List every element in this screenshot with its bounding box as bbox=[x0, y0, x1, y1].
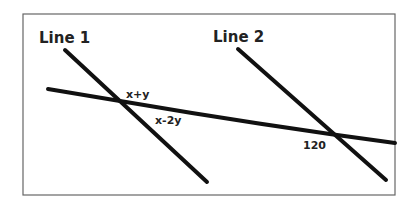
line-1-label: Line 1 bbox=[39, 29, 90, 47]
line-2-label: Line 2 bbox=[213, 28, 264, 46]
parallel-lines-diagram: Line 1 Line 2 x+y x-2y 120 bbox=[0, 0, 417, 205]
angle-label-120: 120 bbox=[303, 139, 326, 152]
angle-label-x-minus-2y: x-2y bbox=[155, 114, 182, 127]
angle-label-x-plus-y: x+y bbox=[126, 88, 149, 101]
